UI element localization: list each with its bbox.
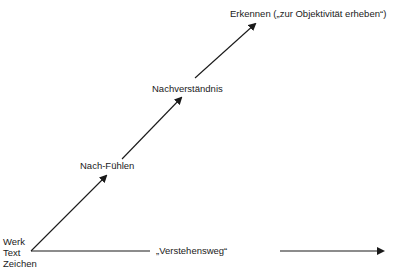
origin-label-zeichen: Zeichen xyxy=(3,258,37,269)
origin-labels: Werk Text Zeichen xyxy=(3,236,37,269)
step-label-erkennen: Erkennen („zur Objektivität erheben“) xyxy=(229,8,387,19)
origin-label-werk: Werk xyxy=(3,236,37,247)
arrow-origin-to-nachfuehlen xyxy=(31,176,106,251)
diagram-lines xyxy=(0,0,394,271)
arrow-nachverstaendnis-to-erkennen xyxy=(195,24,255,78)
origin-label-text: Text xyxy=(3,247,37,258)
arrow-nachfuehlen-to-nachverstaendnis xyxy=(122,98,181,159)
step-label-nachverstaendnis: Nachverständnis xyxy=(151,83,224,94)
baseline-label-verstehensweg: „Verstehensweg“ xyxy=(155,245,228,256)
step-label-nachfuehlen: Nach-Fühlen xyxy=(79,160,135,171)
